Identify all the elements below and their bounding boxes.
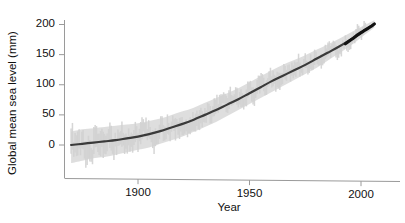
y-axis-title: Global mean sea level (mm) [6,18,18,188]
sea-level-chart-figure: 050100150200 190019502000 Global mean se… [0,0,405,223]
x-axis-ticks [138,179,361,186]
x-tick-label: 2000 [336,188,386,200]
y-axis-ticks [59,25,65,146]
x-axis-title: Year [199,201,259,213]
noisy-annual-series [71,21,365,168]
x-tick-label: 1950 [225,187,275,199]
x-axis-line [65,179,401,182]
x-tick-label: 1900 [113,186,163,198]
